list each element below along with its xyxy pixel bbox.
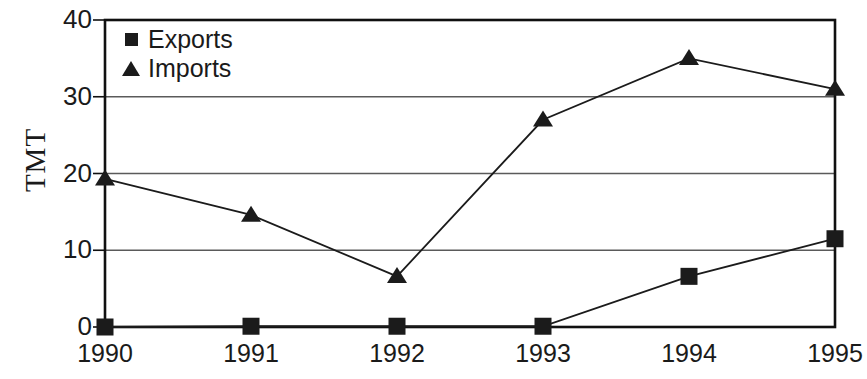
series-line-exports [105,239,835,327]
data-point-exports-1993 [535,318,552,335]
legend-item-imports: Imports [118,55,233,82]
data-point-imports-1990 [95,170,115,186]
legend-label-exports: Exports [144,26,233,53]
data-point-exports-1991 [243,318,260,335]
data-point-exports-1990 [97,319,114,336]
series-line-imports [105,58,835,276]
data-point-imports-1994 [679,49,699,65]
data-point-exports-1992 [389,318,406,335]
triangle-marker-icon [118,61,144,76]
square-marker-icon [118,33,144,46]
data-point-imports-1993 [533,110,553,126]
legend: Exports Imports [118,26,233,82]
data-series [95,49,845,335]
legend-item-exports: Exports [118,26,233,53]
data-point-exports-1994 [681,268,698,285]
data-point-exports-1995 [827,230,844,247]
legend-label-imports: Imports [144,55,231,82]
gridlines [105,97,835,327]
